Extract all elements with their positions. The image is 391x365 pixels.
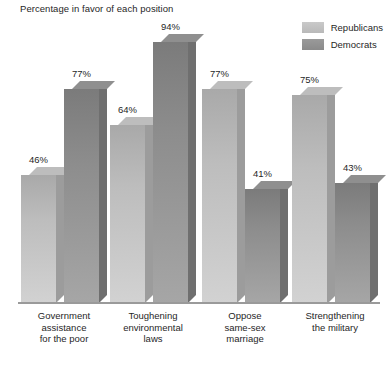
category-label: Strengtheningthe military: [288, 310, 382, 333]
bar-front-face: [110, 125, 145, 303]
bar: [110, 117, 145, 303]
bar: [21, 167, 56, 303]
bar: [245, 181, 280, 303]
category-label-line: Strengthening: [288, 310, 382, 322]
bar-value-label: 77%: [60, 68, 103, 79]
bar-side-face: [145, 117, 153, 303]
category-label-line: Government: [17, 310, 111, 322]
bar-front-face: [64, 89, 99, 303]
bar-front-face: [335, 183, 370, 303]
category-label-line: Toughening: [106, 310, 200, 322]
bar-value-label: 41%: [241, 168, 284, 179]
bar: [292, 87, 327, 304]
bar-front-face: [153, 42, 188, 303]
bar: [335, 175, 370, 303]
plot-area: 46%77%64%94%77%41%75%43%: [0, 0, 391, 310]
bar-front-face: [202, 89, 237, 303]
category-label-line: marriage: [198, 333, 292, 345]
category-label-line: environmental: [106, 322, 200, 334]
category-label: Governmentassistancefor the poor: [17, 310, 111, 345]
bar-front-face: [245, 189, 280, 303]
bar-top-face: [72, 81, 115, 89]
category-label-line: same-sex: [198, 322, 292, 334]
category-label: Tougheningenvironmentallaws: [106, 310, 200, 345]
bar-value-label: 77%: [198, 68, 241, 79]
bar-chart: Percentage in favor of each position Rep…: [0, 0, 391, 365]
bar-side-face: [237, 81, 245, 303]
bar-side-face: [370, 175, 378, 303]
bar-top-face: [343, 175, 386, 183]
bar-value-label: 43%: [331, 162, 374, 173]
bar-top-face: [253, 181, 296, 189]
bar-value-label: 94%: [149, 21, 192, 32]
bar-value-label: 46%: [17, 154, 60, 165]
axis-baseline: [18, 302, 380, 304]
bar-front-face: [21, 175, 56, 303]
bar-top-face: [210, 81, 253, 89]
bar-top-face: [161, 34, 204, 42]
bar-top-face: [300, 87, 343, 95]
bar-value-label: 64%: [106, 104, 149, 115]
bar-front-face: [292, 95, 327, 304]
bar: [64, 81, 99, 303]
bar-side-face: [188, 34, 196, 303]
category-label-line: laws: [106, 333, 200, 345]
bar: [153, 34, 188, 303]
category-label-line: assistance: [17, 322, 111, 334]
bar-side-face: [327, 87, 335, 304]
bar-value-label: 75%: [288, 74, 331, 85]
bar: [202, 81, 237, 303]
bar-side-face: [56, 167, 64, 303]
bar-side-face: [280, 181, 288, 303]
category-label-line: the military: [288, 322, 382, 334]
category-label: Opposesame-sexmarriage: [198, 310, 292, 345]
category-label-line: Oppose: [198, 310, 292, 322]
category-label-line: for the poor: [17, 333, 111, 345]
